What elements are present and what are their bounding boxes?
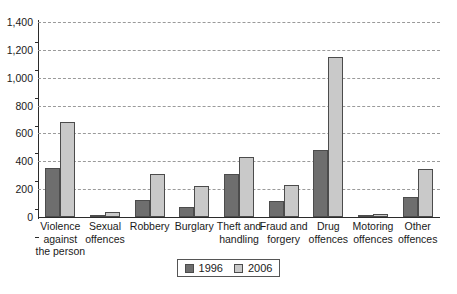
y-axis-tick-label: 200 [15,183,33,195]
y-axis-labels: 02004006008001,0001,2001,400 [0,22,33,217]
bar-2006 [418,169,433,217]
y-axis-tick-label: 1,400 [7,16,33,28]
bar-group [127,22,172,217]
plot-area [38,22,440,217]
bar-2006 [328,57,343,217]
bar-2006 [194,186,209,217]
bar-2006 [105,212,120,217]
bar-group [172,22,217,217]
gridline [38,217,440,218]
y-axis-tick-label: 800 [15,100,33,112]
y-axis-tick-label: 600 [15,127,33,139]
legend-item-2006[interactable]: 2006 [234,262,272,274]
x-axis-category-label: Other offences [389,220,446,245]
bar-2006 [239,157,254,217]
bar-1996 [269,201,284,217]
bar-chart: 02004006008001,0001,2001,400 Violence ag… [0,0,457,294]
bar-2006 [373,214,388,217]
bar-1996 [403,197,418,217]
legend-label: 2006 [248,262,272,274]
y-axis-tick-label: 1,000 [7,72,33,84]
bar-1996 [358,215,373,217]
bar-group [395,22,440,217]
chart-legend: 19962006 [0,259,457,277]
bar-group [217,22,262,217]
legend-label: 1996 [199,262,223,274]
bar-2006 [60,122,75,217]
bar-1996 [179,207,194,217]
bar-1996 [224,174,239,217]
bar-1996 [45,168,60,217]
legend-swatch-2006-icon [234,264,243,273]
legend-item-1996[interactable]: 1996 [185,262,223,274]
bar-2006 [150,174,165,217]
bar-group [261,22,306,217]
y-axis-tick-label: 400 [15,155,33,167]
bar-1996 [313,150,328,217]
legend-box: 19962006 [177,259,281,277]
bar-group [83,22,128,217]
y-axis-tick-label: 1,200 [7,44,33,56]
bar-group [38,22,83,217]
bar-1996 [135,200,150,217]
bar-group [351,22,396,217]
bar-2006 [284,185,299,217]
bar-1996 [90,215,105,217]
legend-swatch-1996-icon [185,264,194,273]
bar-group [306,22,351,217]
